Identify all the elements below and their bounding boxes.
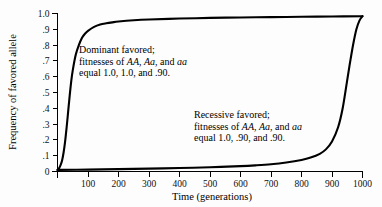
x-tick-label: 400: [172, 179, 187, 189]
x-tick-label: 300: [142, 179, 157, 189]
x-tick-label: 1000: [353, 179, 372, 189]
y-tick-label: .7: [42, 56, 49, 66]
annotation-line: equal 1.0, .90, and .90.: [194, 132, 285, 143]
x-tick-label: 100: [81, 179, 96, 189]
y-tick-label: .2: [42, 135, 49, 145]
annotation-line: fitnesses of AA, Aa, and aa: [79, 56, 187, 67]
y-tick-label: .1: [42, 151, 49, 161]
annotation-line: equal 1.0, 1.0, and .90.: [79, 67, 170, 78]
series-line-recessive-favored: [58, 16, 363, 170]
x-tick-label: 200: [111, 179, 126, 189]
annotation-line: Recessive favored;: [194, 109, 270, 120]
y-axis-title: Frequency of favored allele: [7, 34, 18, 150]
y-axis-ticks: 0.1.2.3.4.5.6.7.8.91.0: [38, 9, 58, 177]
x-axis-title: Time (generations): [172, 191, 252, 203]
chart-canvas: Frequency of favored allele 0.1.2.3.4.5.…: [0, 0, 382, 207]
y-tick-label: .5: [42, 88, 49, 98]
x-tick-label: 800: [294, 179, 309, 189]
annotation-recessive-favored: Recessive favored;fitnesses of AA, Aa, a…: [194, 109, 302, 143]
annotation-dominant-favored: Dominant favored;fitnesses of AA, Aa, an…: [79, 44, 187, 78]
x-tick-label: 500: [203, 179, 218, 189]
chart-figure: Frequency of favored allele 0.1.2.3.4.5.…: [0, 0, 382, 207]
y-axis-title-group: Frequency of favored allele: [7, 34, 18, 150]
y-tick-label: 1.0: [38, 9, 50, 19]
annotation-line: Dominant favored;: [79, 44, 155, 55]
y-tick-label: .3: [42, 120, 49, 130]
x-tick-label: 600: [233, 179, 248, 189]
y-tick-label: .6: [42, 72, 49, 82]
x-tick-label: 900: [325, 179, 340, 189]
y-tick-label: .4: [42, 104, 49, 114]
y-tick-label: .9: [42, 25, 49, 35]
y-tick-label: 0: [45, 167, 50, 177]
series-line-dominant-favored: [58, 16, 363, 170]
x-tick-label: 700: [264, 179, 279, 189]
x-axis-ticks: 1002003004005006007008009001000: [81, 172, 372, 189]
y-tick-label: .8: [42, 41, 49, 51]
annotation-line: fitnesses of AA, Aa, and aa: [194, 121, 302, 132]
